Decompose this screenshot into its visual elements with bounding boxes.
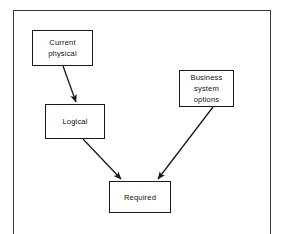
- node-business-system-options: Business system options: [179, 70, 234, 107]
- node-current-physical-label: Current physical: [48, 37, 77, 59]
- edge-logical-to-required: [83, 139, 121, 179]
- node-current-physical: Current physical: [32, 30, 93, 66]
- node-logical-label: Logical: [62, 116, 87, 127]
- edge-current-physical-to-logical: [63, 66, 76, 102]
- diagram-canvas: Current physical Logical Business system…: [0, 0, 282, 234]
- node-business-system-options-label: Business system options: [190, 72, 222, 105]
- edge-business-options-to-required: [158, 107, 213, 179]
- node-required: Required: [109, 181, 171, 213]
- node-logical: Logical: [45, 104, 105, 139]
- node-required-label: Required: [124, 192, 156, 203]
